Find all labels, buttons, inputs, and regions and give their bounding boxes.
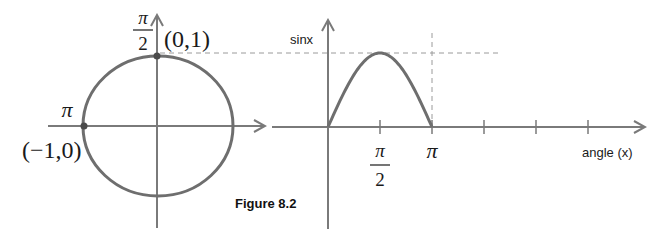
point-top (154, 53, 161, 60)
figure-caption: Figure 8.2 (235, 196, 296, 211)
top-point-label: (0,1) (164, 26, 210, 52)
y-axis-label: sinx (290, 32, 314, 47)
point-left (81, 123, 88, 130)
tick-label-pi-over-2-denominator: 2 (375, 169, 385, 190)
sine-curve (328, 53, 432, 127)
left-point-label: (−1,0) (22, 137, 82, 163)
sine-chart-panel: sinx angle (x) π 2 π (272, 20, 645, 229)
x-axis-label: angle (x) (582, 145, 633, 160)
figure-canvas: π 2 (0,1) π (−1,0) sinx angle (x) π 2 π … (0, 0, 671, 240)
top-angle-denominator: 2 (138, 33, 148, 54)
tick-label-pi-over-2-numerator: π (375, 140, 385, 161)
tick-label-pi: π (426, 138, 438, 163)
left-angle-label: π (61, 97, 73, 122)
top-angle-numerator: π (138, 7, 148, 28)
